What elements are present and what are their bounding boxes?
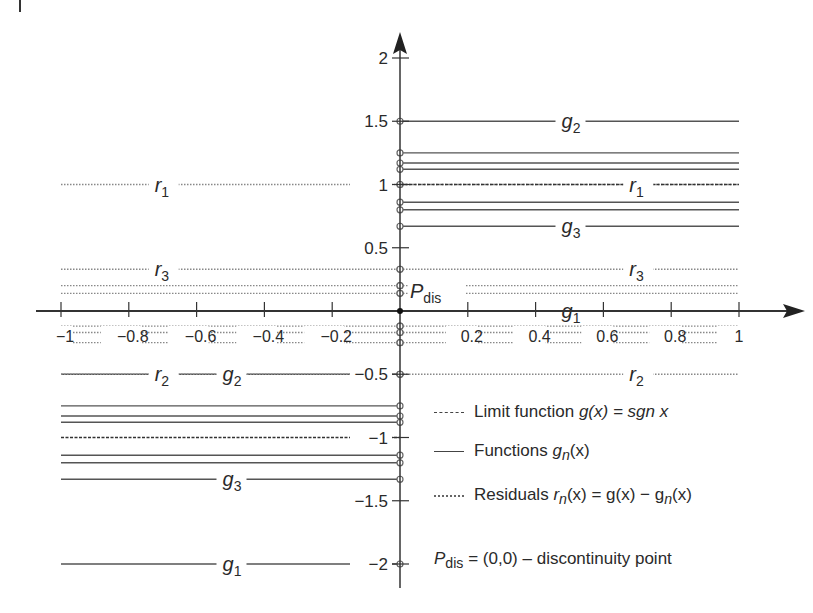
discontinuity-point-marker: [397, 308, 403, 314]
legend-label: Limit function: [474, 402, 579, 421]
solid-line-swatch-icon: [434, 451, 464, 452]
legend-subscript: n: [559, 491, 567, 507]
x-tick-label: 0.2: [461, 328, 483, 345]
y-tick-label: −1: [369, 429, 388, 448]
legend-limit-function: Limit function g(x) = sgn x: [434, 402, 668, 422]
chart-canvas: g1g1g2g2g3g3r1r1r2r2r3r3−1−0.8−0.6−0.4−0…: [0, 0, 813, 613]
legend-functions: Functions gn(x): [434, 441, 590, 463]
dotted-line-swatch-icon: [434, 495, 464, 497]
dashed-line-swatch-icon: [434, 412, 464, 413]
y-tick-label: 1.5: [364, 112, 388, 131]
y-tick-label: 2: [379, 49, 388, 68]
legend-formula-suffix: (x): [672, 485, 692, 504]
legend-residuals: Residuals rn(x) = g(x) − gn(x): [434, 485, 692, 507]
y-tick-label: 1: [379, 176, 388, 195]
x-tick-label: 0.4: [528, 328, 550, 345]
x-tick-label: −0.8: [117, 328, 149, 345]
legend-formula-mid: (x) = g(x) − g: [567, 485, 664, 504]
legend-formula: g(x) = sgn x: [579, 402, 668, 421]
x-tick-label: −0.4: [253, 328, 285, 345]
x-tick-label: −0.6: [185, 328, 217, 345]
legend-point-symbol: P: [434, 549, 445, 568]
x-tick-label: −1: [56, 328, 74, 345]
legend-formula: g: [552, 441, 561, 460]
y-tick-label: −0.5: [354, 365, 388, 384]
legend-formula-suffix: (x): [570, 441, 590, 460]
legend-discontinuity-point: Pdis = (0,0) – discontinuity point: [434, 549, 672, 571]
legend-subscript: dis: [445, 555, 463, 571]
x-tick-label: 0.6: [596, 328, 618, 345]
x-tick-label: 0.8: [664, 328, 686, 345]
legend-label: Functions: [474, 441, 552, 460]
tick-label-background: [717, 326, 749, 346]
x-tick-label: 1: [735, 328, 744, 345]
y-tick-label: −1.5: [354, 492, 388, 511]
x-tick-label: −0.2: [320, 328, 352, 345]
legend-label: Residuals: [474, 485, 553, 504]
y-tick-label: −2: [369, 555, 388, 574]
legend-subscript: n: [562, 447, 570, 463]
legend-subscript: n: [664, 491, 672, 507]
y-tick-label: 0.5: [364, 239, 388, 258]
legend-label: = (0,0) – discontinuity point: [463, 549, 671, 568]
